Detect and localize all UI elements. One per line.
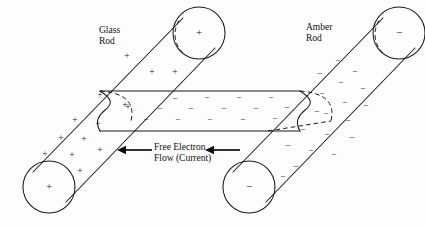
amber-rod-label: Amber Rod xyxy=(306,22,332,44)
negative-charge-symbol: − xyxy=(331,150,336,160)
negative-charge-symbol: − xyxy=(363,101,368,111)
plate-negative-charge-symbol: − xyxy=(240,115,245,125)
negative-charge-symbol: − xyxy=(338,78,343,88)
plate-negative-charge-symbol: − xyxy=(236,93,241,103)
glass-rod-bottom-endcap-charge: + xyxy=(46,180,52,192)
positive-charge-symbol: + xyxy=(124,51,129,61)
negative-charge-symbol: − xyxy=(308,146,313,156)
amber-rod-inner-cap-charge: − xyxy=(314,107,319,117)
plate-negative-charge-symbol: − xyxy=(204,93,209,103)
plate-negative-charge-symbol: − xyxy=(272,114,277,124)
negative-charge-symbol: − xyxy=(342,98,347,108)
positive-charge-symbol: + xyxy=(149,67,154,77)
amber-rod-lower-edge xyxy=(266,48,415,202)
current-arrow xyxy=(117,146,152,154)
negative-charge-symbol: − xyxy=(324,130,329,140)
plate-negative-charge-symbol: − xyxy=(157,104,162,114)
amber-rod-top-endcap-charge: − xyxy=(396,26,402,38)
positive-charge-symbol: + xyxy=(77,166,82,176)
diagram-canvas: ++++++++++++++++−−−−−−−−−−−−−−−−−−−−−−−−… xyxy=(0,0,425,227)
positive-charge-symbol: + xyxy=(97,90,102,100)
current-flow-label: Free Electron Flow (Current) xyxy=(154,142,211,164)
arrow-head xyxy=(117,146,126,154)
positive-charge-symbol: + xyxy=(95,119,100,129)
negative-charge-symbol: − xyxy=(319,89,324,99)
plate-negative-charge-symbol: − xyxy=(207,115,212,125)
amber-rod-bottom-endcap-charge: − xyxy=(246,180,252,192)
electrostatics-diagram: ++++++++++++++++−−−−−−−−−−−−−−−−−−−−−−−−… xyxy=(0,0,425,227)
plate-negative-charge-symbol: − xyxy=(188,104,193,114)
plate-negative-charge-symbol: − xyxy=(143,115,148,125)
plate-negative-charge-symbol: − xyxy=(284,103,289,113)
positive-charge-symbol: + xyxy=(72,115,77,125)
plate-negative-charge-symbol: − xyxy=(172,94,177,104)
plate-negative-charge-symbol: − xyxy=(175,115,180,125)
negative-charge-symbol: − xyxy=(285,141,290,151)
glass-rod-top-endcap-hidden-arc xyxy=(175,19,183,53)
glass-rod-inner-cap-charge: + xyxy=(122,100,127,110)
positive-charge-symbol: + xyxy=(97,145,102,155)
negative-charge-symbol: − xyxy=(317,69,322,79)
negative-charge-symbol: − xyxy=(280,172,285,182)
glass-rod-lower-edge xyxy=(66,48,215,202)
amber-rod-top-endcap-hidden-arc xyxy=(375,19,383,53)
negative-charge-symbol: − xyxy=(335,56,340,66)
negative-charge-symbol: − xyxy=(300,125,305,135)
positive-charge-symbol: + xyxy=(42,149,47,159)
negative-charge-symbol: − xyxy=(293,162,298,172)
negative-charge-symbol: − xyxy=(349,133,354,143)
negative-charge-symbol: − xyxy=(352,67,357,77)
plate-negative-charge-symbol: − xyxy=(253,104,258,114)
glass-rod-top-endcap-charge: + xyxy=(196,26,202,38)
negative-charge-symbol: − xyxy=(323,109,328,119)
charge-symbol-layer: ++++++++++++++++−−−−−−−−−−−−−−−−−−−−−−−−… xyxy=(42,26,402,192)
positive-charge-symbol: + xyxy=(69,150,74,160)
plate-negative-charge-symbol: − xyxy=(221,104,226,114)
positive-charge-symbol: + xyxy=(58,133,63,143)
positive-charge-symbol: + xyxy=(81,134,86,144)
glass-rod-label: Glass Rod xyxy=(99,25,120,47)
negative-charge-symbol: − xyxy=(345,116,350,126)
plate-negative-charge-symbol: − xyxy=(268,93,273,103)
positive-charge-symbol: + xyxy=(172,67,177,77)
negative-charge-symbol: − xyxy=(360,84,365,94)
